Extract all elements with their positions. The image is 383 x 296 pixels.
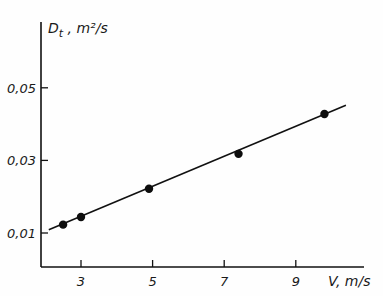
plot-area: 0,010,030,05 3579 Dt , m²/s V, m/s [0, 0, 383, 296]
x-ticks: 3579 [77, 260, 300, 289]
data-point [234, 150, 242, 158]
data-point [145, 185, 153, 193]
x-axis-label: V, m/s [328, 273, 371, 289]
chart: 0,010,030,05 3579 Dt , m²/s V, m/s [0, 0, 383, 296]
x-tick-label: 5 [148, 274, 156, 289]
fit-line [49, 105, 346, 230]
x-tick-label: 9 [292, 274, 300, 289]
data-point [77, 213, 85, 221]
regression-line [49, 105, 346, 230]
y-tick-label: 0,03 [7, 153, 36, 168]
x-tick-label: 7 [220, 274, 229, 289]
y-ticks: 0,010,030,05 [7, 81, 48, 241]
y-tick-label: 0,05 [7, 81, 36, 96]
y-tick-label: 0,01 [7, 226, 36, 241]
data-point [59, 220, 67, 228]
y-axis-label: Dt , m²/s [48, 20, 108, 40]
x-tick-label: 3 [77, 274, 85, 289]
data-point [320, 110, 328, 118]
